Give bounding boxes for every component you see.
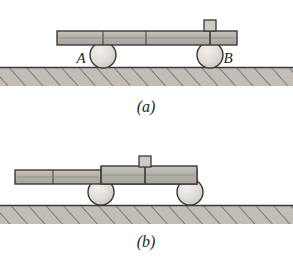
cylinder-label-a: A bbox=[75, 50, 86, 66]
physics-figure: A B (a) bbox=[0, 0, 293, 258]
panel-caption-b: (b) bbox=[137, 233, 156, 251]
cylinder-a bbox=[90, 42, 116, 68]
panel-b: (b) bbox=[0, 156, 293, 251]
small-block bbox=[204, 20, 216, 31]
cylinder-label-b: B bbox=[223, 50, 232, 66]
panel-b-plank bbox=[15, 166, 197, 184]
figure-canvas: A B (a) bbox=[0, 0, 293, 258]
ground-hatch-area bbox=[0, 67, 293, 86]
panel-a-cylinders bbox=[90, 42, 223, 68]
panel-a-ground bbox=[0, 67, 293, 86]
cylinder-b bbox=[197, 42, 223, 68]
panel-a: A B (a) bbox=[0, 20, 293, 116]
panel-caption-a: (a) bbox=[137, 98, 156, 116]
small-block bbox=[139, 156, 151, 167]
ground-hatch-area bbox=[0, 205, 293, 224]
panel-b-ground bbox=[0, 205, 293, 224]
